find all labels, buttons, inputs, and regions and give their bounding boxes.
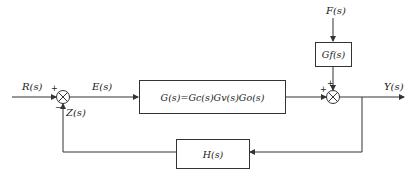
feedback-transfer-label: H(s) [203, 149, 224, 160]
output-summing-junction-icon [327, 91, 340, 104]
input-signal-label: R(s) [22, 82, 42, 92]
input-summing-junction-icon [57, 91, 70, 104]
output-signal-label: Y(s) [384, 82, 404, 92]
disturbance-transfer-label: Gf(s) [322, 49, 345, 60]
feedback-transfer-block: H(s) [176, 139, 250, 169]
error-signal-label: E(s) [92, 82, 112, 92]
input-junction-minus-sign: − [55, 104, 62, 112]
disturbance-signal-label: F(s) [326, 6, 346, 16]
input-junction-plus-sign: + [51, 85, 58, 93]
feedback-signal-label: Z(s) [66, 108, 86, 118]
forward-transfer-label: G(s)=Gc(s)Gv(s)Go(s) [161, 92, 265, 103]
forward-transfer-block: G(s)=Gc(s)Gv(s)Go(s) [139, 80, 286, 114]
disturbance-transfer-block: Gf(s) [315, 42, 352, 67]
output-junction-plus-sign-left: + [320, 86, 327, 94]
block-diagram: G(s)=Gc(s)Gv(s)Go(s) Gf(s) H(s) R(s) E(s… [0, 0, 416, 180]
output-junction-plus-sign-top: + [327, 80, 334, 88]
